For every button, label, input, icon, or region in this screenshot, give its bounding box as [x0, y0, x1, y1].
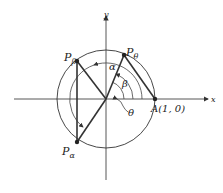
label-p-alpha: Pα [61, 145, 75, 160]
label-theta: θ [128, 107, 134, 118]
unit-circle-diagram: x y A(1, 0) Pθ Pβ Pα α β θ [0, 0, 223, 193]
label-a: A(1, 0) [150, 103, 185, 114]
alpha-arc-lower [70, 65, 94, 127]
label-beta: β [121, 78, 128, 89]
label-p-theta: Pθ [125, 46, 138, 61]
label-p-beta: Pβ [63, 51, 76, 66]
point-p-alpha [75, 140, 79, 144]
theta-arc [117, 99, 128, 112]
diagram-canvas: x y A(1, 0) Pθ Pβ Pα α β θ [0, 0, 223, 193]
radius-palpha [77, 99, 106, 142]
x-axis-label: x [211, 95, 216, 104]
y-axis-label: y [103, 10, 109, 19]
label-alpha: α [109, 61, 116, 72]
chord-ptheta-a [124, 55, 155, 99]
point-a [153, 97, 157, 101]
radius-pbeta [77, 61, 106, 99]
